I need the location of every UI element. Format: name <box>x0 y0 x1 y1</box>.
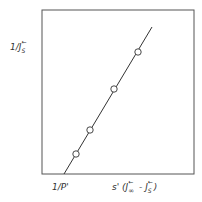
data-point-marker <box>73 151 79 157</box>
x-intercept-label: 1/P' <box>52 182 69 192</box>
chart-plot <box>0 0 202 202</box>
plot-frame <box>42 10 194 174</box>
data-point-marker <box>87 127 93 133</box>
data-point-marker <box>135 49 141 55</box>
y-axis-label: 1/J ← S <box>10 42 28 52</box>
x-axis-label: s' (J ← ∞ - J ← S ) <box>112 182 157 192</box>
data-point-marker <box>111 86 117 92</box>
